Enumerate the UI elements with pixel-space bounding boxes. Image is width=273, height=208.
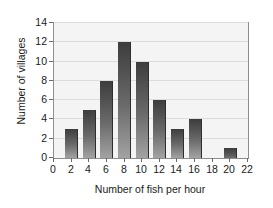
y-tick-label: 10 — [25, 56, 47, 66]
x-tick-mark — [176, 158, 177, 162]
bar — [65, 129, 78, 158]
x-tick-mark — [212, 158, 213, 162]
x-tick-mark — [53, 158, 54, 162]
x-tick-mark — [106, 158, 107, 162]
x-tick-mark — [124, 158, 125, 162]
x-tick-mark — [247, 158, 248, 162]
bar — [83, 110, 96, 158]
bar — [189, 119, 202, 158]
x-tick-label: 22 — [235, 163, 259, 175]
gridline — [54, 61, 248, 62]
gridline — [54, 41, 248, 42]
gridline — [54, 99, 248, 100]
y-tick-label: 0 — [25, 152, 47, 162]
x-tick-mark — [88, 158, 89, 162]
x-tick-mark — [194, 158, 195, 162]
bar — [153, 100, 166, 158]
bar — [100, 81, 113, 158]
bar — [224, 148, 237, 158]
y-tick-label: 2 — [25, 133, 47, 143]
x-tick-mark — [141, 158, 142, 162]
y-tick-label: 12 — [25, 36, 47, 46]
plot-area — [53, 22, 249, 159]
bar — [136, 62, 149, 158]
y-tick-label: 14 — [25, 17, 47, 27]
gridline — [54, 80, 248, 81]
bar — [118, 42, 131, 158]
y-tick-label: 8 — [25, 75, 47, 85]
plot-inner — [54, 23, 248, 158]
x-tick-mark — [159, 158, 160, 162]
y-tick-label: 4 — [25, 113, 47, 123]
x-tick-mark — [71, 158, 72, 162]
bar — [171, 129, 184, 158]
bar-chart: Number of villages 02468101214 024681012… — [0, 0, 273, 208]
gridline — [54, 22, 248, 23]
x-axis-title: Number of fish per hour — [40, 183, 260, 196]
x-tick-mark — [229, 158, 230, 162]
y-tick-label: 6 — [25, 94, 47, 104]
